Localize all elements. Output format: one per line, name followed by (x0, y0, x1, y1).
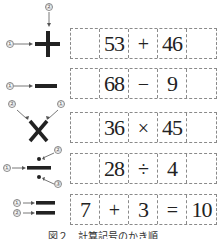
grid-cell-operator: × (129, 113, 158, 142)
grid-cell (71, 113, 100, 142)
grid-cell (187, 154, 216, 183)
equation-row-equals: 7 + 3 = 10 (70, 194, 217, 225)
grid-cell (71, 154, 100, 183)
grid-cell: 9 (158, 69, 187, 98)
grid-cell-operator: + (129, 29, 158, 58)
grid-cell: 45 (158, 113, 187, 142)
stroke-order-label: ③ (54, 180, 62, 188)
equals-stroke-order-icon (0, 195, 60, 225)
grid-cell-operator: − (129, 69, 158, 98)
grid-cell (71, 29, 100, 58)
grid-cell-operator: + (100, 195, 129, 224)
grid-cell: 46 (158, 29, 187, 58)
grid-cell-operator: ÷ (129, 154, 158, 183)
grid-cell: 3 (129, 195, 158, 224)
grid-cell: 4 (158, 154, 187, 183)
equation-row-multiplication: 36 × 45 (70, 112, 217, 143)
equation-row-division: 28 ÷ 4 (70, 153, 217, 184)
divide-stroke-order-icon (0, 150, 70, 195)
grid-cell: 36 (100, 113, 129, 142)
equation-row-subtraction: 68 − 9 (70, 68, 217, 99)
grid-cell-operator: = (158, 195, 187, 224)
times-stroke-order-icon (0, 100, 70, 145)
stroke-order-label: ① (6, 40, 14, 48)
grid-cell (187, 29, 216, 58)
stroke-order-label: ① (13, 199, 21, 207)
stroke-order-label: ① (6, 82, 14, 90)
equation-row-addition: 53 + 46 (70, 28, 217, 59)
grid-cell (71, 69, 100, 98)
grid-cell: 7 (71, 195, 100, 224)
grid-cell: 68 (100, 69, 129, 98)
figure-caption: 図２ 計算記号のかき順 (48, 228, 158, 239)
stroke-order-label: ② (54, 146, 62, 154)
grid-cell: 53 (100, 29, 129, 58)
stroke-order-label: ② (13, 209, 21, 217)
stroke-order-label: ① (3, 164, 11, 172)
grid-cell: 10 (187, 195, 216, 224)
grid-cell (187, 69, 216, 98)
grid-cell (187, 113, 216, 142)
plus-stroke-order-icon (0, 0, 70, 60)
grid-cell: 28 (100, 154, 129, 183)
